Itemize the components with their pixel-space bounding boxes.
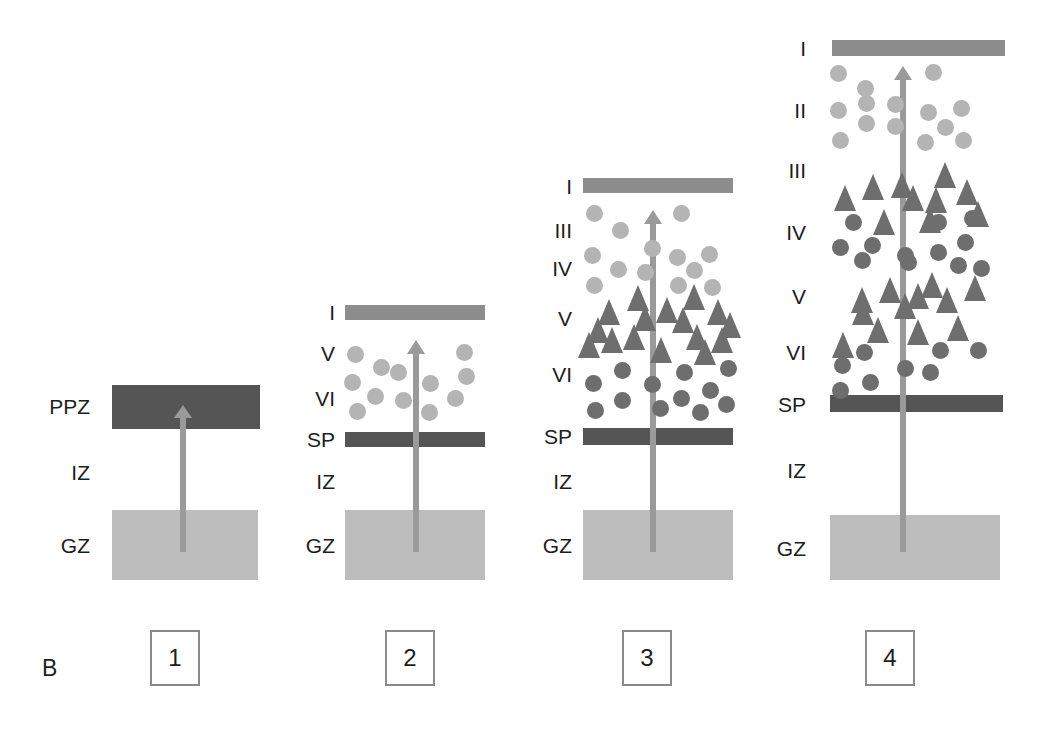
pyramidal-triangle-cell bbox=[947, 315, 969, 341]
light-circle-cell bbox=[830, 102, 847, 119]
dark-circle-cell bbox=[845, 214, 862, 231]
dark-circle-cell bbox=[957, 234, 974, 251]
panel-number-box-2[interactable]: 2 bbox=[385, 630, 435, 686]
panel4-cell-group bbox=[0, 0, 1045, 735]
light-circle-cell bbox=[920, 104, 937, 121]
dark-circle-cell bbox=[973, 260, 990, 277]
panel-number-box-1[interactable]: 1 bbox=[150, 630, 200, 686]
dark-circle-cell bbox=[950, 257, 967, 274]
dark-circle-cell bbox=[832, 239, 849, 256]
pyramidal-triangle-cell bbox=[873, 209, 895, 235]
pyramidal-triangle-cell bbox=[894, 293, 916, 319]
dark-circle-cell bbox=[856, 344, 873, 361]
pyramidal-triangle-cell bbox=[852, 299, 874, 325]
dark-circle-cell bbox=[964, 210, 981, 227]
light-circle-cell bbox=[858, 115, 875, 132]
light-circle-cell bbox=[830, 65, 847, 82]
dark-circle-cell bbox=[900, 254, 917, 271]
pyramidal-triangle-cell bbox=[921, 272, 943, 298]
light-circle-cell bbox=[858, 95, 875, 112]
light-circle-cell bbox=[937, 119, 954, 136]
light-circle-cell bbox=[925, 64, 942, 81]
dark-circle-cell bbox=[930, 214, 947, 231]
dark-circle-cell bbox=[864, 237, 881, 254]
pyramidal-triangle-cell bbox=[964, 275, 986, 301]
light-circle-cell bbox=[917, 134, 934, 151]
pyramidal-triangle-cell bbox=[934, 162, 956, 188]
light-circle-cell bbox=[887, 118, 904, 135]
dark-circle-cell bbox=[970, 342, 987, 359]
dark-circle-cell bbox=[832, 382, 849, 399]
light-circle-cell bbox=[955, 132, 972, 149]
dark-circle-cell bbox=[930, 244, 947, 261]
pyramidal-triangle-cell bbox=[832, 332, 854, 358]
dark-circle-cell bbox=[897, 360, 914, 377]
light-circle-cell bbox=[832, 132, 849, 149]
pyramidal-triangle-cell bbox=[834, 185, 856, 211]
pyramidal-triangle-cell bbox=[907, 319, 929, 345]
panel-number-box-3[interactable]: 3 bbox=[622, 630, 672, 686]
light-circle-cell bbox=[857, 80, 874, 97]
pyramidal-triangle-cell bbox=[862, 174, 884, 200]
dark-circle-cell bbox=[834, 357, 851, 374]
panel-number-box-4[interactable]: 4 bbox=[865, 630, 915, 686]
dark-circle-cell bbox=[854, 252, 871, 269]
dark-circle-cell bbox=[862, 374, 879, 391]
dark-circle-cell bbox=[922, 364, 939, 381]
light-circle-cell bbox=[953, 100, 970, 117]
dark-circle-cell bbox=[932, 342, 949, 359]
light-circle-cell bbox=[887, 96, 904, 113]
